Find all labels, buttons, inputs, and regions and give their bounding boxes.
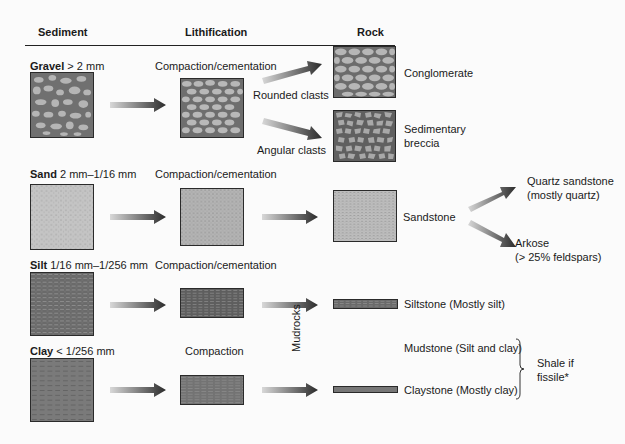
arkose-label-line1: Arkose bbox=[515, 237, 549, 249]
clay-process-label: Compaction bbox=[185, 345, 244, 357]
claystone-note: (Mostly clay) bbox=[456, 384, 518, 396]
sandstone-label: Sandstone bbox=[403, 211, 456, 223]
gravel-label: Gravel > 2 mm bbox=[30, 60, 104, 72]
sandstone-swatch bbox=[333, 190, 397, 242]
claystone-name: Claystone bbox=[404, 384, 453, 396]
arrow-up-right-icon bbox=[468, 184, 516, 212]
quartz-sandstone-label-line1: Quartz sandstone bbox=[527, 175, 614, 187]
mudstone-note: (Silt and clay) bbox=[455, 342, 522, 354]
clay-lithified-swatch bbox=[180, 375, 244, 405]
silt-size: 1/16 mm–1/256 mm bbox=[50, 259, 148, 271]
breccia-swatch bbox=[333, 110, 396, 162]
arrow-right-icon bbox=[262, 383, 318, 397]
arrow-up-right-icon bbox=[262, 58, 322, 84]
arrow-right-icon bbox=[110, 210, 166, 224]
header-sediment: Sediment bbox=[38, 26, 88, 38]
shale-label-line2: fissile* bbox=[537, 371, 569, 383]
sand-label: Sand 2 mm–1/16 mm bbox=[30, 168, 136, 180]
siltstone-label: Siltstone (Mostly silt) bbox=[404, 298, 505, 310]
claystone-label: Claystone (Mostly clay) bbox=[404, 384, 518, 396]
arrow-down-right-icon bbox=[262, 118, 322, 144]
rounded-clasts-label: Rounded clasts bbox=[253, 89, 329, 101]
arrow-right-icon bbox=[110, 383, 166, 397]
gravel-sediment-swatch bbox=[30, 72, 94, 138]
gravel-process-label: Compaction/cementation bbox=[155, 60, 277, 72]
silt-lithified-swatch bbox=[180, 288, 244, 318]
siltstone-note: (Mostly silt) bbox=[449, 298, 505, 310]
siltstone-name: Siltstone bbox=[404, 298, 446, 310]
conglomerate-swatch bbox=[333, 46, 396, 98]
mudstone-name: Mudstone bbox=[404, 342, 452, 354]
silt-sediment-swatch bbox=[30, 272, 94, 336]
silt-process-label: Compaction/cementation bbox=[155, 259, 277, 271]
claystone-swatch bbox=[333, 386, 398, 393]
mudrocks-label: Mudrocks bbox=[290, 304, 302, 352]
mudstone-label: Mudstone (Silt and clay) bbox=[404, 342, 522, 354]
arrow-right-icon bbox=[262, 210, 318, 224]
arkose-label-line2: (> 25% feldspars) bbox=[515, 251, 602, 263]
gravel-name: Gravel bbox=[30, 60, 64, 72]
gravel-size: > 2 mm bbox=[67, 60, 104, 72]
header-rock: Rock bbox=[357, 26, 384, 38]
sand-size: 2 mm–1/16 mm bbox=[60, 168, 136, 180]
clay-sediment-swatch bbox=[30, 358, 94, 422]
clay-label: Clay < 1/256 mm bbox=[30, 345, 115, 357]
sand-name: Sand bbox=[30, 168, 57, 180]
silt-name: Silt bbox=[30, 259, 47, 271]
shale-label-line1: Shale if bbox=[537, 357, 574, 369]
angular-clasts-label: Angular clasts bbox=[257, 144, 326, 156]
sand-lithified-swatch bbox=[180, 188, 244, 246]
breccia-label-line1: Sedimentary bbox=[404, 123, 466, 135]
clay-name: Clay bbox=[30, 345, 53, 357]
sand-sediment-swatch bbox=[30, 184, 94, 250]
silt-label: Silt 1/16 mm–1/256 mm bbox=[30, 259, 148, 271]
quartz-sandstone-label-line2: (mostly quartz) bbox=[527, 189, 600, 201]
arrow-down-right-icon bbox=[468, 220, 516, 250]
arrow-right-icon bbox=[110, 98, 166, 112]
gravel-lithified-swatch bbox=[180, 78, 244, 138]
siltstone-swatch bbox=[333, 299, 398, 309]
clay-size: < 1/256 mm bbox=[56, 345, 114, 357]
header-lithification: Lithification bbox=[185, 26, 247, 38]
brace-icon bbox=[515, 338, 527, 400]
breccia-label-line2: breccia bbox=[404, 137, 439, 149]
conglomerate-label: Conglomerate bbox=[404, 67, 473, 79]
sand-process-label: Compaction/cementation bbox=[155, 168, 277, 180]
arrow-right-icon bbox=[110, 298, 166, 312]
